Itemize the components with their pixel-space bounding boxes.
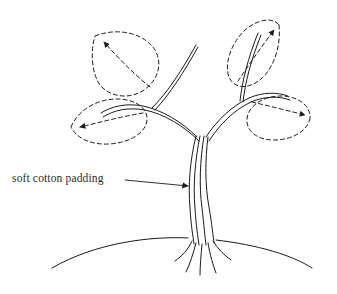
root-system	[175, 241, 231, 275]
annotation-leader-line	[125, 180, 188, 186]
stem-padding-bundle	[189, 136, 214, 245]
annotation-label-soft-cotton-padding: soft cotton padding	[12, 173, 104, 185]
upper-right-leaf	[227, 20, 279, 86]
lower-right-leaf	[247, 96, 310, 140]
left-branch	[101, 45, 199, 141]
upper-left-leaf	[92, 32, 159, 96]
lower-left-leaf	[71, 99, 147, 144]
plant-illustration	[0, 0, 337, 294]
plant-diagram: soft cotton padding	[0, 0, 337, 294]
ground-line	[52, 238, 312, 268]
